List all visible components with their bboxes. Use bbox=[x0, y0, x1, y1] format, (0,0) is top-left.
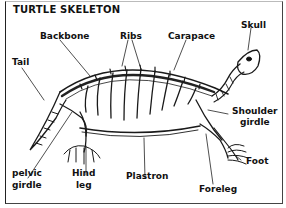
skull-shape bbox=[238, 50, 260, 74]
label-shoulder-girdle-2: girdle bbox=[240, 117, 270, 128]
label-hind-leg-1: Hind bbox=[72, 168, 95, 179]
tail-shape bbox=[30, 92, 66, 150]
diagram-title: TURTLE SKELETON bbox=[13, 4, 120, 15]
label-foot: Foot bbox=[246, 156, 268, 167]
label-pelvic-girdle-1: pelvic bbox=[12, 168, 42, 179]
carapace-shape bbox=[60, 70, 228, 94]
label-backbone: Backbone bbox=[40, 31, 89, 42]
label-ribs: Ribs bbox=[120, 31, 142, 42]
label-pelvic-girdle-2: girdle bbox=[12, 180, 42, 191]
neck-shape bbox=[212, 64, 240, 96]
label-foreleg: Foreleg bbox=[199, 184, 237, 195]
fore-foot-shape bbox=[228, 144, 248, 164]
label-skull: Skull bbox=[241, 20, 266, 31]
label-hind-leg-2: leg bbox=[76, 180, 92, 191]
label-carapace: Carapace bbox=[168, 31, 215, 42]
hind-foot-shape bbox=[64, 146, 100, 164]
label-plastron: Plastron bbox=[126, 171, 168, 182]
plastron-shape bbox=[80, 126, 200, 133]
pelvic-girdle-shape bbox=[60, 104, 87, 136]
label-shoulder-girdle-1: Shoulder bbox=[232, 106, 278, 117]
label-tail: Tail bbox=[12, 57, 29, 68]
